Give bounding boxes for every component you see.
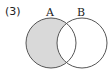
- venn-diagram: [0, 0, 111, 71]
